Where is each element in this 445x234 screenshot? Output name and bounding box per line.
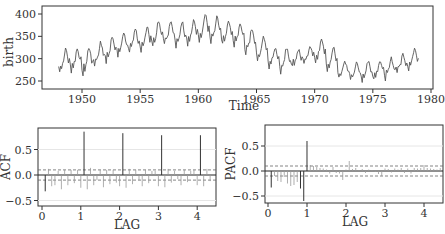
x-tick-label: 0 (265, 207, 272, 220)
y-axis-title: ACF (0, 154, 13, 181)
plot-frame (38, 128, 216, 206)
x-axis-title: LAG (342, 215, 368, 229)
x-axis-title: LAG (114, 218, 140, 232)
y-tick-label: 400 (15, 8, 36, 21)
x-tick-label: 1960 (184, 93, 212, 106)
y-tick-label: 250 (15, 75, 36, 88)
y-axis-title: birth (2, 37, 16, 67)
acf-panel: 0.50.0−0.5 01234 ACF LAG (0, 128, 216, 232)
plot-frame (265, 125, 443, 203)
y-tick-label: −0.5 (232, 190, 259, 203)
grid-lines (265, 146, 443, 196)
x-tick-label: 1980 (417, 93, 445, 106)
birth-series-line (59, 15, 419, 83)
x-tick-label: 3 (155, 210, 162, 223)
acf-bars (45, 132, 210, 192)
x-tick-label: 4 (194, 210, 201, 223)
y-tick-label: 0.5 (15, 144, 33, 157)
y-axis-title: PACF (224, 147, 238, 180)
x-tick-label: 4 (421, 207, 428, 220)
x-tick-label: 1955 (126, 93, 154, 106)
x-tick-label: 1 (77, 210, 84, 223)
pacf-panel: 0.50.0−0.5 01234 PACF LAG (224, 125, 443, 229)
x-tick-label: 0 (39, 210, 46, 223)
x-tick-label: 1 (304, 207, 311, 220)
y-tick-label: 0.5 (242, 140, 260, 153)
figure: 250300350400 195019551960196519701975198… (0, 0, 445, 234)
birth-time-series-panel: 250300350400 195019551960196519701975198… (2, 6, 445, 113)
y-tick-label: 0.0 (242, 165, 260, 178)
y-axis-ticks: 250300350400 (15, 8, 42, 88)
x-tick-label: 1975 (359, 93, 387, 106)
y-tick-label: −0.5 (5, 195, 32, 208)
x-axis-title: Time (229, 99, 259, 113)
x-tick-label: 1970 (301, 93, 329, 106)
y-tick-label: 0.0 (15, 169, 33, 182)
y-tick-label: 300 (15, 53, 36, 66)
x-tick-label: 3 (382, 207, 389, 220)
x-tick-label: 1950 (68, 93, 96, 106)
y-tick-label: 350 (15, 30, 36, 43)
